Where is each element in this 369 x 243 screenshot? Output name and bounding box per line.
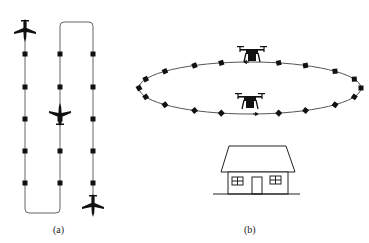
drone-group bbox=[235, 46, 267, 109]
waypoint-marker bbox=[23, 52, 28, 57]
airplane-icon bbox=[82, 194, 104, 217]
waypoint-marker bbox=[191, 62, 197, 68]
waypoint-marker bbox=[23, 181, 28, 186]
waypoint-marker bbox=[136, 85, 143, 92]
waypoint-marker bbox=[23, 117, 28, 122]
waypoint-marker bbox=[332, 69, 338, 75]
waypoint-marker bbox=[91, 181, 96, 186]
waypoint-marker bbox=[352, 76, 357, 81]
waypoint-marker bbox=[191, 107, 198, 114]
panel-b-label: (b) bbox=[244, 224, 256, 235]
waypoint-marker bbox=[91, 85, 96, 90]
panel-a bbox=[14, 19, 104, 217]
waypoint-marker bbox=[58, 85, 63, 90]
waypoint-marker bbox=[276, 60, 282, 66]
waypoint-marker bbox=[91, 52, 96, 57]
waypoint-marker bbox=[23, 85, 28, 90]
waypoint-marker bbox=[58, 52, 63, 57]
drone-icon bbox=[237, 46, 267, 62]
waypoint-marker bbox=[218, 110, 225, 117]
waypoint-marker bbox=[218, 60, 224, 66]
waypoint-marker bbox=[275, 110, 282, 117]
waypoint-marker bbox=[91, 149, 96, 154]
panel-a-label: (a) bbox=[53, 224, 64, 235]
direction-arrow-bottom bbox=[253, 113, 258, 116]
airplane-icon bbox=[49, 103, 71, 126]
waypoint-marker bbox=[142, 76, 149, 83]
house-roof-icon bbox=[221, 146, 295, 172]
airplane-icon bbox=[14, 19, 36, 42]
waypoint-marker bbox=[302, 107, 309, 114]
drone-icon bbox=[235, 93, 265, 109]
waypoint-marker bbox=[162, 68, 169, 75]
waypoint-marker bbox=[91, 117, 96, 122]
waypoint-marker bbox=[332, 101, 339, 108]
figure-canvas bbox=[0, 0, 369, 243]
waypoints-b bbox=[136, 60, 364, 117]
waypoint-marker bbox=[303, 63, 309, 69]
waypoint-marker bbox=[23, 149, 28, 154]
waypoint-marker bbox=[351, 93, 358, 100]
waypoint-marker bbox=[142, 93, 149, 100]
panel-b bbox=[136, 46, 364, 194]
waypoint-marker bbox=[359, 86, 364, 91]
waypoint-marker bbox=[58, 149, 63, 154]
house bbox=[213, 146, 300, 194]
waypoint-marker bbox=[161, 101, 168, 108]
waypoint-marker bbox=[58, 181, 63, 186]
